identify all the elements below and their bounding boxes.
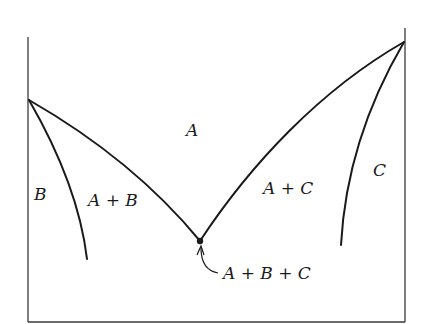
eutectic-leader-line	[201, 248, 218, 273]
eutectic-point	[197, 238, 203, 244]
label-region-a-plus-c: A + C	[261, 178, 313, 198]
label-region-b: B	[33, 184, 47, 204]
label-region-a-plus-b: A + B	[86, 190, 138, 210]
solvus-c-curve	[341, 42, 404, 245]
solvus-b-curve	[29, 100, 87, 259]
liquidus-left-curve	[29, 100, 200, 241]
liquidus-right-curve	[200, 42, 404, 241]
phase-diagram: A B A + B A + C C A + B + C	[0, 0, 426, 324]
label-region-a: A	[184, 120, 198, 140]
label-region-a-plus-b-plus-c: A + B + C	[221, 263, 311, 283]
label-region-c: C	[373, 160, 386, 180]
